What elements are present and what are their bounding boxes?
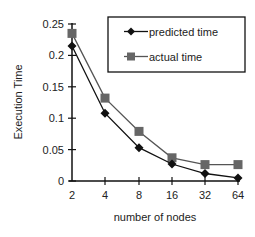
x-tick-label: 4	[102, 189, 108, 201]
x-tick-label: 32	[199, 189, 211, 201]
x-axis-title: number of nodes	[114, 211, 197, 223]
data-point-square	[201, 160, 210, 169]
legend-label-actual: actual time	[149, 51, 202, 63]
data-point-square	[234, 160, 243, 169]
x-tick-labels: 2 4 8 16 32 64	[69, 189, 244, 201]
y-axis-title: Execution Time	[12, 64, 24, 139]
data-point-square	[135, 127, 144, 136]
y-tick-label: 0.25	[43, 18, 64, 30]
data-point-square	[101, 94, 110, 103]
data-point-square	[68, 29, 77, 38]
x-tick-label: 64	[232, 189, 244, 201]
data-point-diamond	[68, 42, 77, 51]
x-tick-label: 2	[69, 189, 75, 201]
y-tick-label: 0.05	[43, 144, 64, 156]
y-tick-label: 0.15	[43, 81, 64, 93]
y-tick-label: 0.1	[49, 112, 64, 124]
line-chart: 0 0.05 0.1 0.15 0.2 0.25 2 4 8 16 32 64 …	[0, 0, 255, 237]
x-tick-label: 8	[136, 189, 142, 201]
x-tick-label: 16	[166, 189, 178, 201]
legend: predicted time actual time	[108, 17, 245, 72]
legend-label-predicted: predicted time	[149, 26, 218, 38]
y-tick-label: 0	[58, 175, 64, 187]
data-point-diamond	[201, 169, 210, 178]
y-tick-label: 0.2	[49, 49, 64, 61]
y-tick-labels: 0 0.05 0.1 0.15 0.2 0.25	[43, 18, 64, 187]
legend-square-icon	[127, 53, 135, 61]
